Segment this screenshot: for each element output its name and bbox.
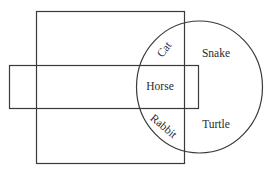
label-turtle: Turtle [202, 118, 230, 130]
label-cat: Cat [154, 39, 174, 60]
venn-diagram: Cat Horse Rabbit Snake Turtle [0, 0, 273, 180]
label-horse: Horse [146, 80, 173, 92]
label-snake: Snake [202, 47, 230, 59]
label-rabbit: Rabbit [148, 112, 180, 141]
